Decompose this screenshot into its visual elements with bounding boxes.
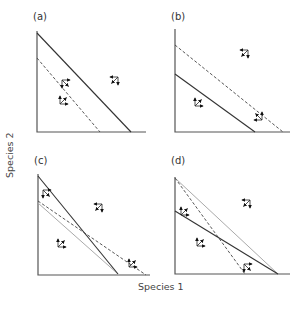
vector-glyph [62,80,70,88]
panel-c-species-1-isocline [38,176,118,274]
vector-glyph [110,77,118,85]
panel-d: (d) [171,155,290,274]
panel-c: (c) [34,155,150,275]
resultant-arrow-icon [60,98,66,104]
panel-c-axes [38,174,150,275]
resultant-arrow-icon [195,100,201,106]
panel-d-species-2-isocline [175,178,245,274]
panel-b: (b) [171,11,290,132]
panel-d-species-1-isocline [175,211,278,274]
panel-a: (a) [33,11,146,132]
vector-glyph [240,50,248,58]
panel-d-axes [175,177,290,274]
resultant-arrow-icon [242,50,248,56]
panel-c-species-2-isocline [38,201,146,275]
x-axis-label: Species 1 [138,281,184,292]
panel-d-label: (d) [171,155,185,166]
panel-a-species-2-isocline [37,58,100,132]
panel-a-axes [37,31,146,132]
panel-b-species-1-isocline [175,74,255,132]
vector-glyph [244,264,252,272]
vector-glyph [254,112,262,120]
panel-b-species-2-isocline [175,45,283,132]
resultant-arrow-icon [244,200,250,206]
vector-glyph [195,98,203,106]
panel-a-label: (a) [33,11,47,22]
resultant-arrow-icon [43,190,49,196]
resultant-arrow-icon [58,241,64,247]
panel-b-label: (b) [171,11,185,22]
panel-c-label: (c) [34,155,47,166]
resultant-arrow-icon [244,264,250,270]
vector-glyph [60,96,68,104]
vector-glyph [58,239,66,247]
resultant-arrow-icon [112,77,118,83]
panel-d-reference-line [175,178,278,274]
resultant-arrow-icon [96,204,102,210]
vector-glyph [181,207,189,215]
resultant-arrow-icon [62,80,68,86]
isocline-figure: (a) (b) (c) (d) Species 1 Species 2 [0,0,300,309]
vector-glyph [242,200,250,208]
vector-glyph [197,238,205,246]
vector-glyph [129,259,137,267]
resultant-arrow-icon [181,209,187,215]
panel-b-axes [175,29,290,132]
resultant-arrow-icon [197,240,203,246]
vector-glyph [94,204,102,212]
panel-a-species-1-isocline [37,33,131,132]
y-axis-label: Species 2 [4,132,15,178]
panel-c-reference-line [38,203,118,274]
vector-glyphs [43,50,262,272]
